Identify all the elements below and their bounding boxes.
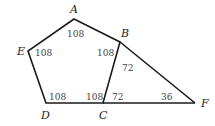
geometry-diagram: A B C D E F 108 108 108 72 108 108 72 36 <box>0 0 215 126</box>
vertex-label-a: A <box>69 3 78 16</box>
angle-label-e: 108 <box>35 48 52 58</box>
angle-label-a: 108 <box>67 29 84 39</box>
angle-label-d: 108 <box>49 92 66 102</box>
vertex-label-e: E <box>16 45 25 58</box>
angle-label-b-triangle: 72 <box>122 63 133 73</box>
vertex-label-b: B <box>120 27 129 40</box>
angle-label-c-triangle: 72 <box>112 92 123 102</box>
angle-label-f: 36 <box>161 92 173 102</box>
angle-label-c-pentagon: 108 <box>86 92 103 102</box>
angle-label-b-pentagon: 108 <box>97 48 114 58</box>
vertex-label-d: D <box>40 109 50 122</box>
vertex-label-c: C <box>99 109 108 122</box>
vertex-label-f: F <box>200 97 209 110</box>
